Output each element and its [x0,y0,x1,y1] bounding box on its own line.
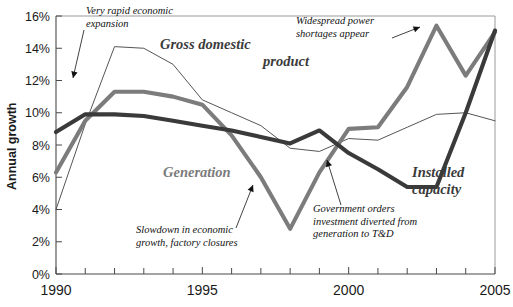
y-tick-label: 2% [32,235,50,249]
annotation-power-shortages-line-0: Widespread power [296,15,375,26]
series-label-generation: Generation [163,164,231,180]
y-axis-title: Annual growth [5,103,19,191]
annotation-rapid-expansion: Very rapid economicexpansion [86,5,173,29]
x-axis-tick-labels: 1990199520002005 [40,282,510,298]
annotation-government-orders-line-1: investment diverted from [313,216,417,227]
series-label-gdp: Gross domesticproduct [160,36,310,69]
y-tick-label: 4% [32,203,50,217]
annotation-rapid-expansion-line-0: Very rapid economic [86,5,173,16]
y-tick-label: 0% [32,268,50,282]
x-axis-ticks [56,267,495,274]
series-label-capacity: Installedcapacity [411,164,465,197]
series-label-gdp-line-0: Gross domestic [160,36,251,52]
y-axis-tick-labels: 0%2%4%6%8%10%12%14%16% [25,10,50,282]
x-tick-label: 2000 [333,282,364,298]
y-tick-label: 10% [25,106,50,120]
annotation-rapid-expansion-arrowhead [71,71,77,78]
x-tick-label: 2005 [479,282,510,298]
y-tick-label: 12% [25,74,50,88]
x-tick-label: 1995 [187,282,218,298]
series-label-generation-line-0: Generation [163,164,231,180]
x-tick-label: 1990 [40,282,71,298]
annotation-slowdown-leader [236,185,253,228]
annotation-slowdown: Slowdown in economicgrowth, factory clos… [136,224,238,248]
series-label-capacity-line-1: capacity [412,181,462,197]
annotation-government-orders-leader [327,160,341,205]
annotation-power-shortages-line-1: shortages appear [296,28,370,39]
y-tick-label: 16% [25,10,50,24]
annotation-government-orders-line-0: Government orders [313,203,395,214]
annotation-government-orders: Government ordersinvestment diverted fro… [313,203,417,239]
annotation-slowdown-line-1: growth, factory closures [136,237,238,248]
annotation-rapid-expansion-leader [73,30,84,78]
line-chart: 0%2%4%6%8%10%12%14%16% 1990199520002005 … [0,0,513,307]
annotation-government-orders-line-2: generation to T&D [313,228,394,239]
y-tick-label: 6% [32,171,50,185]
annotation-slowdown-line-0: Slowdown in economic [136,224,233,235]
y-tick-label: 8% [32,139,50,153]
annotation-rapid-expansion-line-1: expansion [86,18,129,29]
chart-container: 0%2%4%6%8%10%12%14%16% 1990199520002005 … [0,0,513,307]
y-tick-label: 14% [25,42,50,56]
y-axis-ticks [56,16,62,274]
annotation-power-shortages: Widespread powershortages appear [296,15,375,39]
series-label-gdp-line-1: product [261,53,310,69]
series-label-capacity-line-0: Installed [411,164,465,180]
